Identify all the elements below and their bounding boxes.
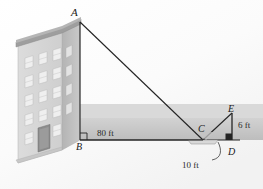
dimension-label-offset: 10 ft — [182, 161, 199, 170]
dimension-label-post-height: 6 ft — [238, 121, 250, 130]
point-label-d: D — [228, 147, 235, 157]
ground-plane — [62, 118, 263, 140]
statics-diagram: A B C D E 80 ft 6 ft 10 ft — [0, 0, 263, 189]
anchor-pad-C — [188, 140, 218, 144]
point-label-b: B — [76, 142, 82, 152]
building-door-panel — [40, 127, 49, 150]
diagram-canvas — [0, 0, 263, 189]
dimension-label-span: 80 ft — [97, 129, 114, 138]
right-angle-marker-D — [226, 134, 233, 141]
point-label-a: A — [71, 7, 78, 18]
point-label-e: E — [228, 104, 234, 114]
point-label-c: C — [198, 124, 205, 134]
